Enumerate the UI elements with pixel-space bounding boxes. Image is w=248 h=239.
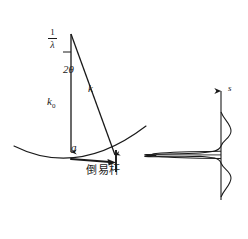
reciprocal-lattice-vector-label: g bbox=[71, 142, 77, 153]
ewald-radius-label: 1 λ bbox=[48, 28, 57, 50]
figure-root: 1 λ 2θ k0 k g 倒易杆 s bbox=[0, 0, 248, 239]
relrod-profile-group bbox=[145, 91, 231, 200]
reciprocal-lattice-vector-g-line bbox=[71, 159, 110, 162]
k0-subscript: 0 bbox=[52, 102, 56, 110]
ewald-construction-group bbox=[14, 34, 146, 172]
diffracted-wavevector-k-line bbox=[71, 34, 115, 155]
ewald-sphere-arc bbox=[14, 126, 146, 158]
s-axis-label: s bbox=[228, 84, 232, 93]
diffracted-wavevector-label: k bbox=[88, 83, 93, 94]
radius-denominator: λ bbox=[50, 39, 54, 50]
reciprocal-rod-caption: 倒易杆 bbox=[86, 165, 121, 176]
radius-numerator: 1 bbox=[50, 28, 55, 38]
scattering-angle-label: 2θ bbox=[63, 64, 74, 75]
incident-wavevector-label: k0 bbox=[47, 96, 55, 110]
figure-canvas bbox=[0, 0, 248, 239]
